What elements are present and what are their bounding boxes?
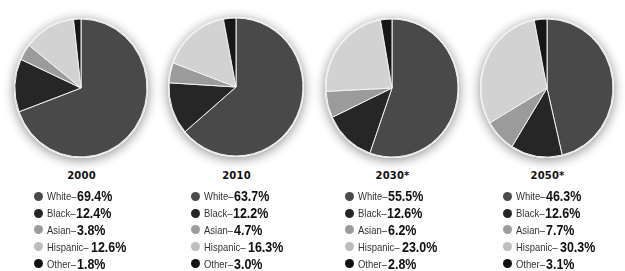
legend-item-other: Other–3.0% (191, 255, 289, 271)
legend: White–55.5% Black–12.6% Asian–6.2% Hispa… (345, 188, 443, 271)
legend-dot-black-icon (34, 209, 43, 218)
legend-dot-other-icon (191, 259, 200, 268)
legend-dot-hispanic-icon (345, 242, 354, 251)
legend-item-other: Other–3.1% (503, 255, 601, 271)
year-label: 2000 (4, 170, 159, 181)
legend-item-white: White–69.4% (34, 188, 132, 205)
legend-item-hispanic: Hispanic–30.3% (503, 238, 601, 255)
legend-item-asian: Asian–6.2% (345, 222, 443, 239)
chart-panel-2030: 2030* White–55.5% Black–12.6% Asian–6.2%… (315, 0, 470, 271)
legend-dot-black-icon (191, 209, 200, 218)
legend: White–46.3% Black–12.6% Asian–7.7% Hispa… (503, 188, 601, 271)
legend: White–63.7% Black–12.2% Asian–4.7% Hispa… (191, 188, 289, 271)
legend-dot-asian-icon (503, 225, 512, 234)
legend-item-other: Other–2.8% (345, 255, 443, 271)
legend-dot-white-icon (345, 192, 354, 201)
legend: White–69.4% Black–12.4% Asian–3.8% Hispa… (34, 188, 132, 271)
legend-item-hispanic: Hispanic–23.0% (345, 238, 443, 255)
legend-item-black: Black–12.6% (503, 205, 601, 222)
legend-dot-hispanic-icon (34, 242, 43, 251)
chart-panel-2010: 2010 White–63.7% Black–12.2% Asian–4.7% … (159, 0, 314, 271)
legend-item-asian: Asian–3.8% (34, 222, 132, 239)
legend-dot-other-icon (503, 259, 512, 268)
legend-dot-black-icon (345, 209, 354, 218)
legend-dot-white-icon (191, 192, 200, 201)
legend-item-asian: Asian–7.7% (503, 222, 601, 239)
legend-item-black: Black–12.2% (191, 205, 289, 222)
legend-item-hispanic: Hispanic–16.3% (191, 238, 289, 255)
legend-dot-black-icon (503, 209, 512, 218)
legend-dot-white-icon (34, 192, 43, 201)
pie-chart-2010 (159, 0, 314, 165)
legend-dot-asian-icon (191, 225, 200, 234)
legend-item-black: Black–12.4% (34, 205, 132, 222)
chart-panel-2000: 2000 White–69.4% Black–12.4% Asian–3.8% … (4, 0, 159, 271)
legend-dot-asian-icon (345, 225, 354, 234)
year-label: 2030* (315, 170, 470, 181)
chart-panel-2050: 2050* White–46.3% Black–12.6% Asian–7.7%… (470, 0, 625, 271)
legend-dot-other-icon (345, 259, 354, 268)
year-label: 2050* (470, 170, 625, 181)
legend-dot-other-icon (34, 259, 43, 268)
pie-chart-2030 (315, 0, 470, 165)
legend-dot-hispanic-icon (191, 242, 200, 251)
pie-chart-2000 (4, 0, 159, 165)
legend-item-white: White–55.5% (345, 188, 443, 205)
legend-dot-white-icon (503, 192, 512, 201)
legend-dot-hispanic-icon (503, 242, 512, 251)
legend-item-white: White–63.7% (191, 188, 289, 205)
legend-item-black: Black–12.6% (345, 205, 443, 222)
legend-item-hispanic: Hispanic–12.6% (34, 238, 132, 255)
legend-item-asian: Asian–4.7% (191, 222, 289, 239)
legend-dot-asian-icon (34, 225, 43, 234)
pie-chart-2050 (470, 0, 625, 165)
legend-item-other: Other–1.8% (34, 255, 132, 271)
legend-item-white: White–46.3% (503, 188, 601, 205)
year-label: 2010 (159, 170, 314, 181)
